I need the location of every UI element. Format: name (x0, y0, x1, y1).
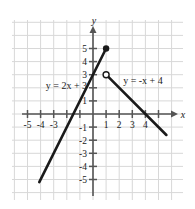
right-equation-label: y = -x + 4 (123, 75, 163, 86)
x-tick-label: 3 (130, 120, 135, 130)
y-tick-label: 3 (82, 70, 87, 80)
y-tick-label: -2 (79, 136, 87, 146)
y-tick-label: -5 (79, 175, 87, 185)
plotted-lines (39, 49, 166, 183)
y-tick-label: 5 (82, 44, 87, 54)
coordinate-plane: -5-4-312345431-1-2-3-4-5 xy y = 2x + 3y … (0, 0, 195, 209)
grid-lines (12, 20, 183, 200)
x-tick-label: 4 (143, 120, 148, 130)
y-axis-name: y (91, 15, 97, 26)
x-tick-label: 1 (104, 120, 109, 130)
graph-figure: -5-4-312345431-1-2-3-4-5 xy y = 2x + 3y … (0, 0, 195, 209)
y-tick-label: -3 (79, 149, 87, 159)
open-circle-endpoint (103, 72, 109, 78)
y-tick-label: 4 (82, 57, 87, 67)
x-tick-label: -5 (24, 120, 32, 130)
y-tick-label: 1 (82, 96, 87, 106)
closed-circle-endpoint (103, 45, 109, 51)
y-axis-arrowhead (90, 26, 97, 33)
x-axis-arrowhead (171, 111, 178, 118)
left-equation-label: y = 2x + 3 (46, 80, 87, 91)
y-tick-label: -1 (79, 123, 87, 133)
y-tick-label: -4 (79, 162, 87, 172)
x-axis-name: x (180, 109, 186, 120)
x-tick-label: -4 (37, 120, 45, 130)
x-tick-label: 2 (117, 120, 122, 130)
x-tick-label: -3 (50, 120, 58, 130)
line-segment (39, 49, 106, 183)
